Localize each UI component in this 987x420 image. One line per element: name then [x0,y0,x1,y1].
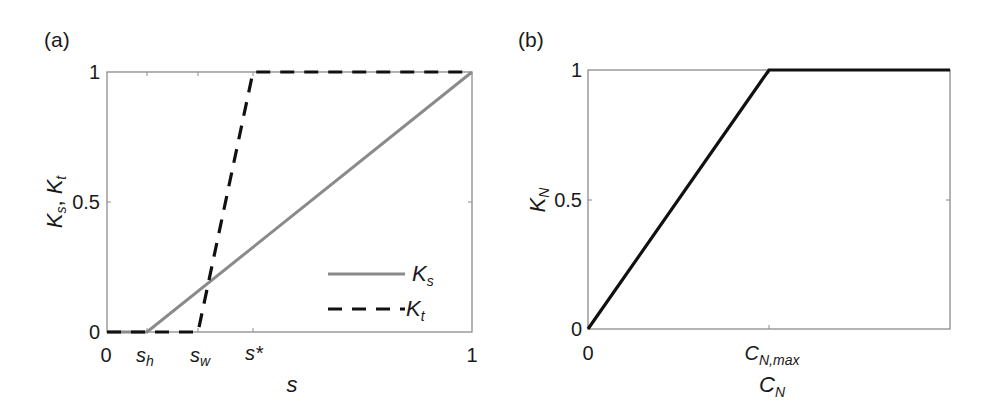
panel-b: (b) 0 0.5 1 0 CN,max CN KN [518,28,950,400]
panel-a-label: (a) [44,28,70,51]
panel-b-xtick-cnmax: CN,max [745,342,801,368]
panel-a-legend: Ks Kt [328,261,434,324]
series-ks-line [107,72,472,332]
panel-a-ytick-0.5: 0.5 [72,191,100,213]
panel-a-xtick-sstar: s* [245,342,264,364]
panel-a-ytick-0: 0 [89,321,100,343]
panel-b-ylabel: KN [525,187,552,213]
panel-a-xtick-sw: sw [190,344,211,369]
panel-b-ytick-1: 1 [571,59,582,81]
panel-b-label: (b) [518,28,544,51]
panel-b-ytick-0.5: 0.5 [554,189,582,211]
panel-b-axes-box [588,70,950,329]
panel-a-axes-box [107,72,472,332]
figure: (a) 0 0.5 1 0 sh sw s* 1 s Ks, Kt Ks [0,0,987,420]
legend-ks-label: Ks [412,261,434,289]
panel-a-xtick-0: 0 [100,344,111,366]
panel-a-xlabel: s [287,372,298,397]
panel-a: (a) 0 0.5 1 0 sh sw s* 1 s Ks, Kt Ks [42,28,478,397]
panel-b-xtick-0: 0 [582,342,593,364]
panel-b-ticks [588,70,950,329]
panel-b-ytick-0: 0 [571,318,582,340]
series-kt-line [107,72,472,332]
panel-a-ytick-1: 1 [89,61,100,83]
panel-a-ylabel: Ks, Kt [42,175,69,229]
series-kn-line [588,70,950,329]
panel-b-xlabel: CN [759,372,786,400]
legend-kt-label: Kt [406,296,426,324]
panel-a-xtick-1: 1 [466,344,477,366]
panel-a-xtick-sh: sh [136,344,154,369]
panel-a-xticks [107,72,472,332]
